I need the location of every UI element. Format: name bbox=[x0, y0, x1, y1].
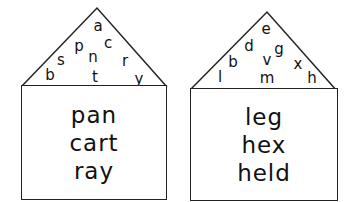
roof-letter: c bbox=[104, 36, 112, 51]
roof-letter: t bbox=[92, 70, 98, 85]
roof-letter: s bbox=[57, 53, 65, 68]
word: cart bbox=[69, 129, 118, 157]
word: hex bbox=[242, 131, 287, 159]
roof-letter: r bbox=[122, 54, 128, 69]
word: leg bbox=[245, 103, 283, 131]
roof-letter: m bbox=[260, 71, 275, 86]
roof-letter: d bbox=[244, 39, 254, 54]
roof-letter: v bbox=[263, 53, 272, 68]
word: ray bbox=[74, 157, 114, 185]
word: held bbox=[237, 159, 291, 187]
word-box-right: leg hex held bbox=[190, 88, 338, 201]
word: pan bbox=[71, 101, 117, 129]
roof-letter: p bbox=[74, 39, 84, 54]
roof-letter: x bbox=[294, 57, 303, 72]
roof-letter: a bbox=[93, 19, 102, 34]
roof-letter: h bbox=[307, 71, 317, 86]
word-box-left: pan cart ray bbox=[21, 85, 167, 200]
roof-letter: n bbox=[88, 50, 98, 65]
roof-letter: g bbox=[274, 42, 284, 57]
roof-letter: b bbox=[45, 68, 55, 83]
roof-letter: l bbox=[218, 70, 222, 85]
roof-letter: b bbox=[228, 55, 238, 70]
roof-letter: e bbox=[261, 22, 270, 37]
